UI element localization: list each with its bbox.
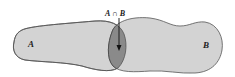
intersection-label: A ∩ B [104,9,126,18]
set-b-label: B [202,40,209,50]
venn-diagram: A B A ∩ B [0,0,235,77]
set-a-label: A [27,39,34,49]
